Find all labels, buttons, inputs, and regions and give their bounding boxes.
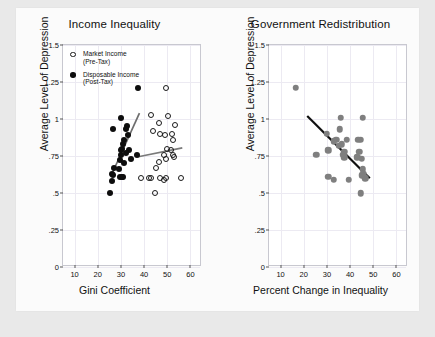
- panel-government-redistribution: Government Redistribution Average Level …: [222, 8, 419, 303]
- data-point: [358, 172, 365, 179]
- y-axis-tick-label: 1: [261, 115, 265, 124]
- data-point: [107, 190, 113, 196]
- plot-area-right: 0.25.5.7511.251.5102030405060: [268, 44, 407, 266]
- data-point: [163, 156, 169, 162]
- x-axis-label-right: Percent Change in Inequality: [222, 284, 419, 296]
- x-axis-tick-label: 30: [117, 270, 125, 279]
- x-axis-tick-label: 20: [300, 270, 308, 279]
- y-axis-tick-label: 1: [55, 115, 59, 124]
- data-point: [148, 112, 154, 118]
- x-axis-tick-label: 60: [392, 270, 400, 279]
- data-point: [148, 175, 154, 181]
- legend: Market Income (Pre-Tax) Disposable Incom…: [70, 50, 139, 91]
- data-point: [116, 166, 122, 172]
- data-point: [138, 175, 144, 181]
- data-point: [341, 154, 348, 161]
- data-point: [120, 174, 126, 180]
- data-point: [156, 159, 162, 165]
- y-axis-label-right: Average Level of Depression: [244, 0, 256, 174]
- x-axis-tick-label: 60: [186, 270, 194, 279]
- data-point: [170, 137, 176, 143]
- data-point: [162, 132, 168, 138]
- data-point: [110, 126, 116, 132]
- x-axis-label-left: Gini Coefficient: [16, 284, 213, 296]
- filled-circle-icon: [70, 72, 76, 78]
- legend-sublabel-disposable-income: (Post-Tax): [83, 78, 139, 86]
- data-point: [109, 178, 115, 184]
- y-axis-tick-label: .5: [259, 189, 265, 198]
- y-axis-tick-label: .75: [255, 152, 265, 161]
- x-axis-tick-label: 30: [323, 270, 331, 279]
- x-axis-tick-label: 40: [346, 270, 354, 279]
- data-point: [165, 113, 171, 119]
- y-axis-tick-label: 1.25: [250, 78, 265, 87]
- data-point: [153, 165, 159, 171]
- data-point: [172, 122, 178, 128]
- data-point: [355, 136, 362, 143]
- x-axis-tick-label: 50: [369, 270, 377, 279]
- data-point: [338, 114, 345, 121]
- gridline-horizontal: [269, 267, 406, 268]
- y-axis-tick-label: .75: [49, 152, 59, 161]
- data-point: [128, 156, 134, 162]
- y-axis-tick-label: 1.5: [255, 41, 265, 50]
- data-point: [121, 160, 127, 166]
- y-axis-tick-label: 1.25: [44, 78, 59, 87]
- data-point: [163, 175, 169, 181]
- data-point: [163, 85, 169, 91]
- panel-income-inequality: Income Inequality Average Level of Depre…: [16, 8, 213, 303]
- fit-lines: [269, 45, 408, 267]
- data-point: [178, 175, 184, 181]
- legend-sublabel-market-income: (Pre-Tax): [83, 58, 139, 66]
- gridline-horizontal: [63, 267, 200, 268]
- data-point: [360, 114, 367, 121]
- legend-item-disposable-income: Disposable Income (Post-Tax): [70, 71, 139, 87]
- x-axis-tick-label: 20: [94, 270, 102, 279]
- data-point: [292, 85, 299, 92]
- data-point: [171, 154, 177, 160]
- y-axis-tick-label: 0: [261, 263, 265, 272]
- legend-label-disposable-income: Disposable Income: [83, 71, 139, 78]
- y-axis-tick-label: 0: [55, 263, 59, 272]
- figure-container: Income Inequality Average Level of Depre…: [0, 0, 435, 337]
- data-point: [152, 190, 158, 196]
- data-point: [150, 128, 156, 134]
- x-axis-tick-label: 10: [276, 270, 284, 279]
- data-point: [331, 176, 338, 183]
- data-point: [134, 152, 140, 158]
- legend-item-market-income: Market Income (Pre-Tax): [70, 50, 139, 66]
- y-axis-tick-label: .25: [49, 226, 59, 235]
- data-point: [357, 190, 364, 197]
- data-point: [336, 126, 343, 133]
- x-axis-tick-label: 10: [70, 270, 78, 279]
- open-circle-icon: [70, 52, 76, 58]
- y-axis-tick-label: 1.5: [49, 41, 59, 50]
- data-point: [358, 156, 365, 163]
- legend-label-market-income: Market Income: [83, 50, 127, 57]
- data-point: [346, 176, 353, 183]
- data-point: [324, 131, 331, 138]
- y-axis-tick-label: .5: [53, 189, 59, 198]
- data-point: [313, 151, 320, 158]
- data-point: [118, 115, 124, 121]
- y-axis-label-left: Average Level of Depression: [38, 0, 50, 174]
- data-point: [156, 120, 162, 126]
- data-point: [335, 142, 342, 149]
- x-axis-tick-label: 50: [163, 270, 171, 279]
- x-axis-tick-label: 40: [140, 270, 148, 279]
- y-axis-tick-label: .25: [255, 226, 265, 235]
- data-point: [325, 147, 332, 154]
